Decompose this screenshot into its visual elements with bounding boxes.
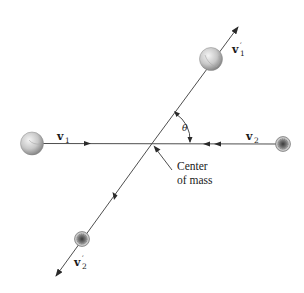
- v2-prime-direction-arrow-icon: [113, 192, 118, 200]
- v2-direction-arrow-icon-2: [214, 142, 221, 147]
- outgoing-path-line-up: [152, 27, 238, 144]
- ball-2-initial: [276, 137, 291, 152]
- label-v2: v 2: [245, 130, 259, 145]
- v1-direction-arrow-icon: [84, 141, 91, 146]
- svg-text:2: 2: [254, 136, 259, 145]
- svg-text:v: v: [245, 130, 253, 143]
- theta-label: θ: [182, 123, 188, 133]
- ball-2-final: [75, 232, 90, 247]
- svg-text:′: ′: [82, 254, 84, 263]
- svg-text:′: ′: [240, 41, 242, 50]
- label-v2-prime: v 2 ′: [73, 254, 87, 271]
- svg-text:2: 2: [82, 262, 87, 271]
- label-v1-prime: v 1 ′: [231, 41, 245, 58]
- svg-text:1: 1: [65, 136, 70, 145]
- incoming-path-line: [43, 144, 276, 145]
- svg-text:v: v: [56, 130, 64, 143]
- center-of-mass-pointer-arrow-icon: [154, 146, 161, 153]
- theta-arc-arrow-bottom-icon: [188, 137, 193, 143]
- ball-1-final: [200, 48, 223, 71]
- label-v1: v 1: [56, 130, 70, 145]
- center-of-mass-label-line2: of mass: [177, 174, 213, 186]
- svg-text:1: 1: [240, 49, 245, 58]
- center-of-mass-pointer-line: [156, 149, 172, 170]
- center-of-mass-label-line1: Center: [177, 160, 208, 172]
- svg-text:v: v: [73, 256, 81, 269]
- outgoing-path-line-down: [56, 144, 152, 277]
- svg-text:v: v: [231, 43, 239, 56]
- center-of-mass-collision-diagram: θ Center of mass v 1 v 2 v 1 ′ v 2 ′: [0, 0, 304, 293]
- ball-1-initial: [21, 132, 44, 155]
- v2-direction-arrow-icon: [203, 142, 210, 147]
